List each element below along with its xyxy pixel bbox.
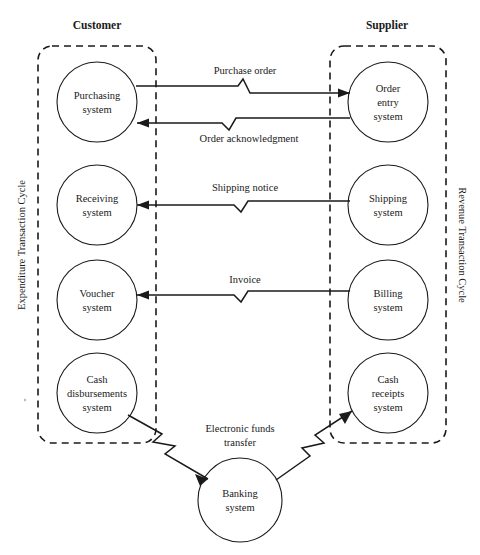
diagram-page: Customer Supplier Expenditure Transactio… [0,0,480,555]
node-shipping-system-line1: Shipping [369,193,408,204]
node-banking-system[interactable] [198,458,282,542]
expenditure-cycle-label: Expenditure Transaction Cycle [16,180,27,310]
flow-purchase-order-line [136,79,350,93]
flow-order-acknowledgment-line [137,118,350,130]
flow-shipping-notice: Shipping notice [137,182,350,212]
node-cash-receipts-system-line3: system [373,402,402,413]
supplier-title: Supplier [366,19,408,32]
node-purchasing-system-line1: Purchasing [74,90,121,101]
node-billing-system-line1: Billing [373,288,403,299]
customer-title: Customer [73,19,122,31]
flow-shipping-notice-arrowhead [137,200,149,209]
node-purchasing-system-line2: system [82,104,111,115]
flow-eft-label-line2: transfer [224,437,257,448]
revenue-cycle-label: Revenue Transaction Cycle [457,187,468,303]
node-cash-receipts-system-line2: receipts [372,388,405,399]
node-order-entry-system-line1: Order [376,83,401,94]
node-cash-receipts-system-line1: Cash [378,374,400,385]
flow-eft-disbursement [128,415,208,486]
node-receiving-system-line2: system [82,207,111,218]
node-banking-system-line2: system [225,502,254,513]
flow-invoice-label: Invoice [229,274,261,285]
node-order-entry-system-line2: entry [377,97,399,108]
flow-purchase-order: Purchase order [136,65,350,98]
node-cash-disbursements-system-line1: Cash [87,374,109,385]
node-voucher-system-line1: Voucher [80,288,115,299]
flow-eft-receipt-line [276,411,352,480]
flow-invoice-line [137,291,350,302]
node-receiving-system[interactable] [57,165,137,245]
node-cash-disbursements-system-line3: system [82,402,111,413]
flow-order-acknowledgment-label: Order acknowledgment [200,133,299,144]
flow-shipping-notice-label: Shipping notice [212,182,279,193]
node-voucher-system-line2: system [82,302,111,313]
node-voucher-system[interactable] [57,260,137,340]
node-billing-system[interactable] [348,260,428,340]
node-purchasing-system[interactable] [57,62,137,142]
flow-eft-label-line1: Electronic funds [205,423,274,434]
node-cash-disbursements-system-line2: disbursements [67,388,127,399]
node-shipping-system-line2: system [373,207,402,218]
flow-eft-disbursement-line [128,415,208,479]
node-billing-system-line2: system [373,302,402,313]
node-order-entry-system-line3: system [373,111,402,122]
flow-invoice: Invoice [137,274,350,302]
node-shipping-system[interactable] [348,165,428,245]
node-receiving-system-line1: Receiving [76,193,119,204]
node-banking-system-line1: Banking [222,488,258,499]
transaction-cycle-diagram: Customer Supplier Expenditure Transactio… [0,0,480,555]
flow-eft-receipt [276,411,352,480]
flow-invoice-arrowhead [137,290,149,299]
flow-purchase-order-label: Purchase order [214,65,277,76]
flow-order-acknowledgment: Order acknowledgment [137,118,350,144]
flow-shipping-notice-line [137,201,350,212]
scan-speck [24,399,26,401]
flow-order-acknowledgment-arrowhead [137,118,149,127]
